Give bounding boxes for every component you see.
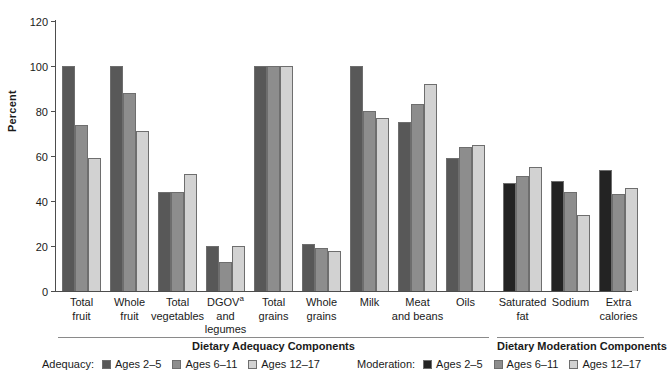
- bar[interactable]: [184, 174, 197, 291]
- x-axis-line: [55, 291, 632, 292]
- moderation-section-rule: [497, 337, 644, 338]
- legend-label-moderation-3: Ages 12–17: [582, 358, 641, 370]
- y-axis-tick-mark: [51, 246, 56, 247]
- legend-label-moderation-2: Ages 6–11: [507, 358, 559, 370]
- bar-group: [62, 21, 101, 291]
- y-axis-tick: 120: [30, 12, 56, 30]
- bar[interactable]: [302, 244, 315, 291]
- bar[interactable]: [328, 251, 341, 292]
- bar[interactable]: [529, 167, 542, 291]
- y-axis-tick-label: 100: [30, 61, 48, 73]
- bar[interactable]: [363, 111, 376, 291]
- legend-adequacy-caption: Adequacy:: [42, 358, 94, 370]
- legend-swatch-moderation-1: [423, 360, 432, 369]
- y-axis-tick-label: 60: [36, 151, 48, 163]
- y-axis-tick: 60: [36, 147, 56, 165]
- bar[interactable]: [472, 145, 485, 291]
- plot-area: 120100806040200: [56, 21, 631, 291]
- y-axis-tick-label: 80: [36, 106, 48, 118]
- y-axis-tick-mark: [51, 21, 56, 22]
- y-axis-tick: 20: [36, 237, 56, 255]
- bar[interactable]: [350, 66, 363, 291]
- bar[interactable]: [599, 170, 612, 292]
- y-axis-tick: 80: [36, 102, 56, 120]
- bar[interactable]: [551, 181, 564, 291]
- bar[interactable]: [219, 262, 232, 291]
- bar-group: [398, 21, 437, 291]
- legend-entry-adequacy-ages-12-17[interactable]: Ages 12–17: [248, 358, 320, 370]
- bar[interactable]: [171, 192, 184, 291]
- x-axis-label: Extracalories: [577, 296, 661, 323]
- bar[interactable]: [459, 147, 472, 291]
- y-axis-tick: 100: [30, 57, 56, 75]
- legend-adequacy: Adequacy: Ages 2–5 Ages 6–11 Ages 12–17: [42, 358, 331, 370]
- bar[interactable]: [158, 192, 171, 291]
- legend-swatch-adequacy-2: [172, 360, 181, 369]
- bar[interactable]: [376, 118, 389, 291]
- bar[interactable]: [411, 104, 424, 291]
- legend-entry-moderation-ages-6-11[interactable]: Ages 6–11: [494, 358, 559, 370]
- bar[interactable]: [315, 248, 328, 291]
- legend-label-adequacy-1: Ages 2–5: [115, 358, 161, 370]
- bar[interactable]: [280, 66, 293, 291]
- legend-swatch-adequacy-1: [102, 360, 111, 369]
- bar[interactable]: [254, 66, 267, 291]
- bar[interactable]: [516, 176, 529, 291]
- bar[interactable]: [424, 84, 437, 291]
- y-axis-tick-mark: [51, 291, 56, 292]
- legend-swatch-adequacy-3: [248, 360, 257, 369]
- adequacy-section-rule: [58, 337, 489, 338]
- bar-group: [446, 21, 485, 291]
- bar-group: [503, 21, 542, 291]
- y-axis-tick-mark: [51, 156, 56, 157]
- y-axis-title: Percent: [6, 90, 18, 132]
- bar-group: [158, 21, 197, 291]
- legend-entry-adequacy-ages-6-11[interactable]: Ages 6–11: [172, 358, 237, 370]
- bar-group: [110, 21, 149, 291]
- legend-entry-adequacy-ages-2-5[interactable]: Ages 2–5: [102, 358, 161, 370]
- y-axis-tick: 40: [36, 192, 56, 210]
- bar[interactable]: [110, 66, 123, 291]
- legend-swatch-moderation-3: [569, 360, 578, 369]
- legend-entry-moderation-ages-2-5[interactable]: Ages 2–5: [423, 358, 482, 370]
- y-axis-tick-label: 20: [36, 241, 48, 253]
- bar[interactable]: [267, 66, 280, 291]
- bar-group: [206, 21, 245, 291]
- legend-label-moderation-1: Ages 2–5: [436, 358, 482, 370]
- bar-group: [254, 21, 293, 291]
- legend-label-adequacy-3: Ages 12–17: [261, 358, 320, 370]
- bar-group: [302, 21, 341, 291]
- y-axis-tick-mark: [51, 66, 56, 67]
- legend-entry-moderation-ages-12-17[interactable]: Ages 12–17: [569, 358, 641, 370]
- legend-swatch-moderation-2: [494, 360, 503, 369]
- bar[interactable]: [503, 183, 516, 291]
- legend-moderation-caption: Moderation:: [357, 358, 415, 370]
- bar-group: [551, 21, 590, 291]
- bar[interactable]: [398, 122, 411, 291]
- bar[interactable]: [612, 194, 625, 291]
- bar[interactable]: [232, 246, 245, 291]
- bar[interactable]: [206, 246, 219, 291]
- bar[interactable]: [88, 158, 101, 291]
- bar-group: [599, 21, 638, 291]
- legend-moderation: Moderation: Ages 2–5 Ages 6–11 Ages 12–1…: [357, 358, 652, 370]
- bar[interactable]: [564, 192, 577, 291]
- y-axis-tick-label: 120: [30, 16, 48, 28]
- bar[interactable]: [446, 158, 459, 291]
- bar[interactable]: [577, 215, 590, 292]
- bar[interactable]: [62, 66, 75, 291]
- y-axis-tick-mark: [51, 111, 56, 112]
- y-axis-tick-mark: [51, 201, 56, 202]
- adequacy-section-title: Dietary Adequacy Components: [58, 340, 489, 352]
- bar-group: [350, 21, 389, 291]
- y-axis-tick-label: 40: [36, 196, 48, 208]
- moderation-section-title: Dietary Moderation Components: [497, 340, 644, 352]
- bar[interactable]: [136, 131, 149, 291]
- legend-label-adequacy-2: Ages 6–11: [185, 358, 237, 370]
- bar[interactable]: [123, 93, 136, 291]
- bar[interactable]: [625, 188, 638, 292]
- bar[interactable]: [75, 125, 88, 292]
